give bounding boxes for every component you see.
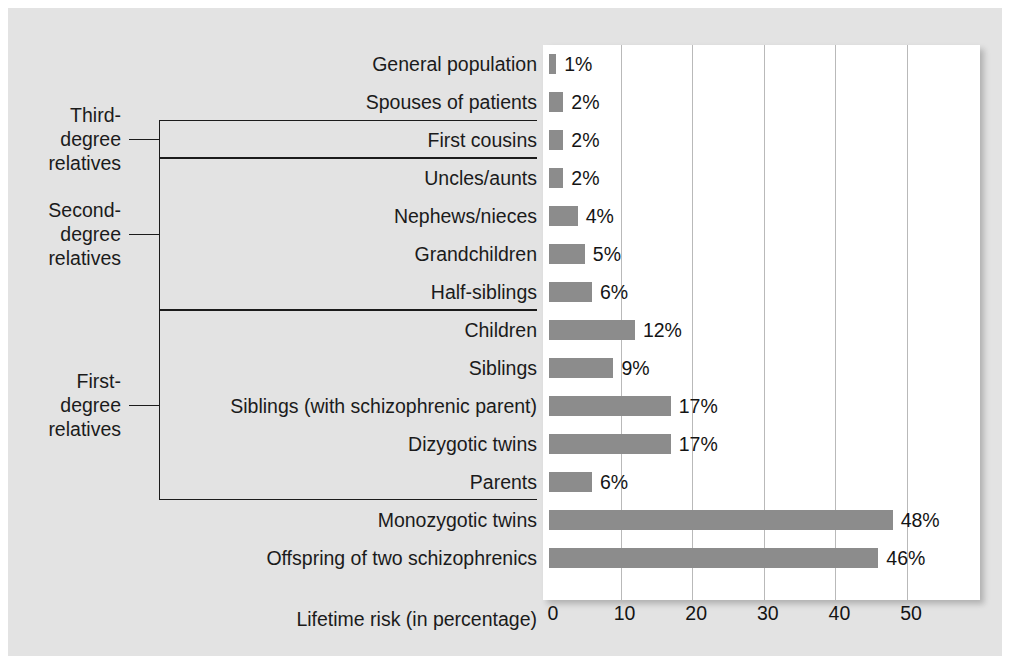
category-label: Offspring of two schizophrenics	[266, 539, 537, 577]
category-label: First cousins	[428, 121, 537, 159]
bar-value-label: 17%	[671, 425, 718, 463]
bar	[549, 168, 563, 188]
bar-container: 2%	[549, 121, 1002, 159]
bar	[549, 472, 592, 492]
bar-container: 6%	[549, 463, 1002, 501]
chart-row: First cousins2%	[8, 121, 1002, 159]
bar	[549, 548, 878, 568]
category-label: Half-siblings	[431, 273, 537, 311]
x-tick-label: 0	[548, 602, 559, 625]
chart-row: Siblings (with schizophrenic parent)17%	[8, 387, 1002, 425]
bar	[549, 206, 578, 226]
chart-rows: General population1%Spouses of patients2…	[8, 45, 1002, 577]
bar-value-label: 6%	[592, 463, 628, 501]
category-label: Siblings (with schizophrenic parent)	[230, 387, 537, 425]
chart-row: Monozygotic twins48%	[8, 501, 1002, 539]
bar	[549, 396, 671, 416]
category-label: General population	[372, 45, 537, 83]
bar-container: 12%	[549, 311, 1002, 349]
bar-value-label: 12%	[635, 311, 682, 349]
bar-value-label: 2%	[563, 159, 599, 197]
chart-row: Parents6%	[8, 463, 1002, 501]
bar	[549, 282, 592, 302]
bar-container: 17%	[549, 387, 1002, 425]
bar	[549, 434, 671, 454]
bar-container: 48%	[549, 501, 1002, 539]
bar-container: 2%	[549, 159, 1002, 197]
bar	[549, 130, 563, 150]
chart-row: Half-siblings6%	[8, 273, 1002, 311]
x-tick-label: 20	[685, 602, 707, 625]
x-tick-label: 40	[829, 602, 851, 625]
bar	[549, 92, 563, 112]
chart-row: Dizygotic twins17%	[8, 425, 1002, 463]
bar-value-label: 1%	[556, 45, 592, 83]
chart-row: Offspring of two schizophrenics46%	[8, 539, 1002, 577]
bar-value-label: 17%	[671, 387, 718, 425]
x-tick-label: 50	[900, 602, 922, 625]
bar	[549, 244, 585, 264]
x-tick-label: 30	[757, 602, 779, 625]
x-axis: Lifetime risk (in percentage) 0102030405…	[8, 600, 1002, 650]
bar-container: 9%	[549, 349, 1002, 387]
category-label: Spouses of patients	[366, 83, 537, 121]
bar-container: 1%	[549, 45, 1002, 83]
bar-container: 4%	[549, 197, 1002, 235]
category-label: Dizygotic twins	[408, 425, 537, 463]
bar-value-label: 46%	[878, 539, 925, 577]
x-axis-title: Lifetime risk (in percentage)	[296, 600, 537, 638]
bar	[549, 510, 893, 530]
bar-value-label: 2%	[563, 83, 599, 121]
bar	[549, 358, 613, 378]
bar-value-label: 2%	[563, 121, 599, 159]
chart-row: Siblings9%	[8, 349, 1002, 387]
bar-container: 46%	[549, 539, 1002, 577]
bar	[549, 320, 635, 340]
figure-panel: Third-degreerelativesSecond-degreerelati…	[8, 8, 1002, 656]
category-label: Parents	[470, 463, 537, 501]
category-label: Uncles/aunts	[424, 159, 537, 197]
category-label: Grandchildren	[415, 235, 537, 273]
bar-value-label: 5%	[585, 235, 621, 273]
chart-row: Children12%	[8, 311, 1002, 349]
chart-row: Nephews/nieces4%	[8, 197, 1002, 235]
chart-row: Spouses of patients2%	[8, 83, 1002, 121]
bar-value-label: 9%	[613, 349, 649, 387]
category-label: Monozygotic twins	[378, 501, 537, 539]
bar-value-label: 6%	[592, 273, 628, 311]
bar-container: 2%	[549, 83, 1002, 121]
chart-row: Grandchildren5%	[8, 235, 1002, 273]
category-label: Siblings	[469, 349, 537, 387]
bar-container: 5%	[549, 235, 1002, 273]
category-label: Children	[464, 311, 537, 349]
chart-row: Uncles/aunts2%	[8, 159, 1002, 197]
bar-value-label: 48%	[893, 501, 940, 539]
bar-container: 17%	[549, 425, 1002, 463]
category-label: Nephews/nieces	[394, 197, 537, 235]
chart-row: General population1%	[8, 45, 1002, 83]
bar-container: 6%	[549, 273, 1002, 311]
bar-value-label: 4%	[578, 197, 614, 235]
bar	[549, 54, 556, 74]
x-tick-label: 10	[614, 602, 636, 625]
